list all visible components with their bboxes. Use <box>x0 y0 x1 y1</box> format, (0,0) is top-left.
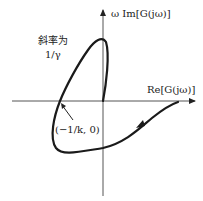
popov-diagram: ω Im[G(jω)] 斜率为 1/γ Re[G(jω)] (−1/k, 0) <box>0 0 203 201</box>
popov-locus-curve <box>53 39 178 152</box>
x-axis-label: Re[G(jω)] <box>147 84 195 95</box>
slope-label-line1: 斜率为 <box>38 35 68 46</box>
y-axis-label: ω Im[G(jω)] <box>111 8 171 19</box>
direction-arrow-icon <box>136 120 145 128</box>
pointer-arrow-icon <box>61 103 66 109</box>
critical-point-label: (−1/k, 0) <box>55 124 100 135</box>
slope-label-line2: 1/γ <box>45 49 61 60</box>
diagram-graphics <box>0 0 203 201</box>
